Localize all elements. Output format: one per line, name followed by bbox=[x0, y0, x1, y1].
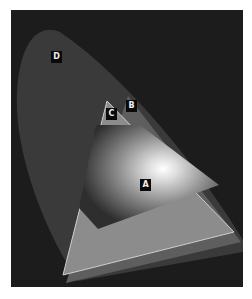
label-b: B bbox=[126, 100, 137, 112]
label-a: A bbox=[140, 179, 151, 191]
label-d: D bbox=[51, 51, 62, 63]
label-c: C bbox=[106, 108, 117, 120]
gamut-diagram bbox=[0, 0, 252, 299]
